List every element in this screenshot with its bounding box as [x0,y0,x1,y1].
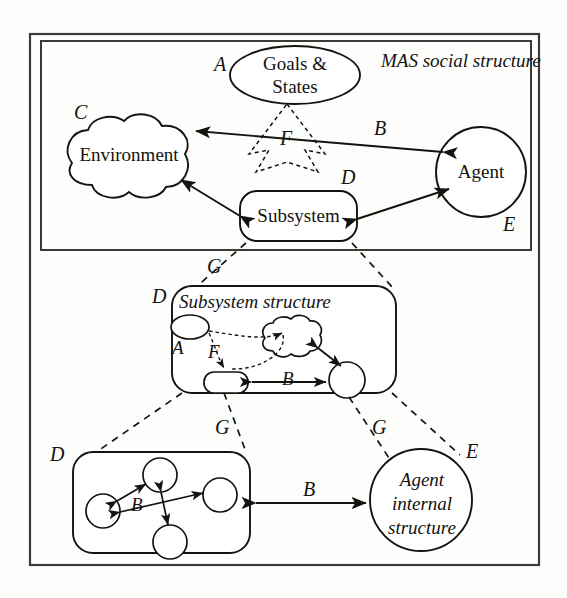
tag-B-agent-graph: B [131,494,143,516]
graph-node-left [86,494,120,528]
tag-A-subsystem-goal: A [172,337,184,359]
environment-label: Environment [54,144,204,166]
tag-D-subsystem-structure: D [152,285,166,308]
figure-canvas: MAS social structure Goals & States Envi… [0,0,567,598]
agent-label: Agent [445,161,517,183]
tag-F-subsystem-broadcast: F [208,341,220,363]
tag-G-subsystem-refinement: G [207,255,221,278]
subsystem-agent-circle-shape [329,362,365,398]
tag-D-subsystem: D [341,166,355,189]
tag-B-subsystem-interaction: B [282,368,294,390]
subsystem-goal-ellipse-shape [171,315,209,339]
subsystem-label: Subsystem [241,205,356,227]
tag-F-broadcast: F [280,127,292,150]
mas-social-caption: MAS social structure [381,50,499,71]
tag-A-goals: A [214,53,226,76]
refinement-line-agent-right-G [392,393,460,455]
edge-subsystem-environment [181,180,240,216]
subsystem-structure-caption: Subsystem structure [179,291,389,313]
tag-B-agent-environment: B [374,117,386,140]
tag-D-agent-graph: D [50,443,64,466]
subsystem-inner-box-shape [204,372,248,393]
graph-node-bottom [153,525,187,559]
tag-G-agent-refinement: G [372,416,386,439]
tag-E-agent-internal: E [466,440,478,463]
refinement-line-structure-to-graph [92,393,182,455]
graph-node-right [203,478,237,512]
graph-node-top [143,458,177,492]
tag-C-environment: C [74,101,87,124]
tag-B-cross-level: B [303,478,315,501]
tag-G-graph-refinement: G [215,416,229,439]
goals-states-label: Goals & States [240,52,350,98]
tag-E-agent: E [503,213,515,236]
edge-agent-environment [196,131,443,152]
edge-subsystem-agent [357,189,449,219]
agent-internal-label: Agent internal structure [376,468,468,540]
